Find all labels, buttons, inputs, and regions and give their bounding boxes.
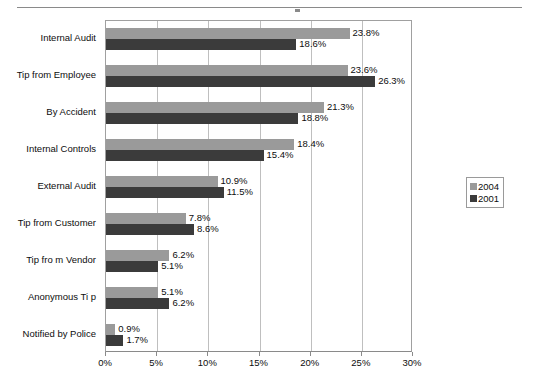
x-axis-tick-mark xyxy=(310,352,311,356)
category-label: Notified by Police xyxy=(23,328,96,340)
legend-item: 2004 xyxy=(470,180,499,192)
bar-value-label: 21.3% xyxy=(327,101,354,112)
x-axis-tick-label: 25% xyxy=(351,357,370,369)
bar-value-label: 18.6% xyxy=(299,38,326,49)
bar-2001 xyxy=(106,298,169,309)
bar-value-label: 0.9% xyxy=(118,323,140,334)
bar-group: 6.2%5.1% xyxy=(106,242,411,279)
bar-2001 xyxy=(106,224,194,235)
x-axis-tick-label: 20% xyxy=(300,357,319,369)
bar-2004 xyxy=(106,176,218,187)
x-axis-tick-label: 15% xyxy=(249,357,268,369)
bar-value-label: 11.5% xyxy=(227,186,253,197)
bar-group: 18.4%15.4% xyxy=(106,132,411,169)
bar-group: 0.9%1.7% xyxy=(106,316,411,353)
x-axis-tick-mark xyxy=(105,352,106,356)
x-axis-tick-mark xyxy=(361,352,362,356)
bar-2004 xyxy=(106,213,186,224)
x-axis-tick-label: 0% xyxy=(98,357,112,369)
bar-2001 xyxy=(106,150,264,161)
legend-swatch-icon xyxy=(470,183,477,190)
bar-2004 xyxy=(106,287,158,298)
bar-2004 xyxy=(106,102,324,113)
x-axis-tick-mark xyxy=(207,352,208,356)
bar-group: 21.3%18.8% xyxy=(106,95,411,132)
legend-label: 2001 xyxy=(478,193,499,204)
bar-value-label: 18.8% xyxy=(301,112,328,123)
bar-group: 23.8%18.6% xyxy=(106,21,411,58)
bar-value-label: 7.8% xyxy=(189,212,211,223)
bar-value-label: 23.8% xyxy=(353,27,380,38)
bar-value-label: 5.1% xyxy=(161,286,183,297)
bar-value-label: 18.4% xyxy=(297,138,324,149)
category-label: Anonymous Ti p xyxy=(28,291,96,303)
bar-group: 23.6%26.3% xyxy=(106,58,411,95)
x-axis-tick-label: 30% xyxy=(402,357,421,369)
bar-2001 xyxy=(106,76,375,87)
bar-group: 5.1%6.2% xyxy=(106,279,411,316)
category-label: Tip from Customer xyxy=(18,217,96,229)
bar-value-label: 6.2% xyxy=(172,249,194,260)
bar-value-label: 23.6% xyxy=(351,64,378,75)
x-axis-tick-label: 5% xyxy=(149,357,163,369)
bar-value-label: 6.2% xyxy=(172,297,194,308)
bar-2004 xyxy=(106,65,348,76)
bar-2001 xyxy=(106,261,158,272)
category-label: Tip fro m Vendor xyxy=(26,254,96,266)
plot-area: 23.8%18.6%23.6%26.3%21.3%18.8%18.4%15.4%… xyxy=(105,20,412,352)
bar-2004 xyxy=(106,250,169,261)
bar-2001 xyxy=(106,187,224,198)
bar-2004 xyxy=(106,324,115,335)
bar-2001 xyxy=(106,335,123,346)
x-axis-tick-label: 10% xyxy=(198,357,217,369)
legend-label: 2004 xyxy=(478,181,499,192)
x-axis-tick-mark xyxy=(259,352,260,356)
horizontal-bar-chart: Internal AuditTip from EmployeeBy Accide… xyxy=(0,0,533,387)
bar-2001 xyxy=(106,39,296,50)
category-label: External Audit xyxy=(37,180,96,192)
category-label: Tip from Employee xyxy=(17,69,96,81)
legend-item: 2001 xyxy=(470,192,499,204)
bar-value-label: 8.6% xyxy=(197,223,219,234)
bar-value-label: 26.3% xyxy=(378,75,405,86)
category-label: Internal Controls xyxy=(26,143,96,155)
chart-legend: 20042001 xyxy=(466,177,504,208)
x-axis-tick-mark xyxy=(412,352,413,356)
legend-swatch-icon xyxy=(470,195,477,202)
bar-2001 xyxy=(106,113,298,124)
bar-value-label: 1.7% xyxy=(126,334,148,345)
bar-value-label: 10.9% xyxy=(221,175,248,186)
category-axis-labels: Internal AuditTip from EmployeeBy Accide… xyxy=(0,20,100,352)
category-label: Internal Audit xyxy=(41,32,96,44)
bar-group: 10.9%11.5% xyxy=(106,169,411,206)
bar-value-label: 5.1% xyxy=(161,260,183,271)
x-axis-tick-mark xyxy=(156,352,157,356)
bar-group: 7.8%8.6% xyxy=(106,205,411,242)
value-axis-labels: 0%5%10%15%20%25%30% xyxy=(0,357,533,373)
bar-value-label: 15.4% xyxy=(267,149,294,160)
category-label: By Accident xyxy=(46,106,96,118)
